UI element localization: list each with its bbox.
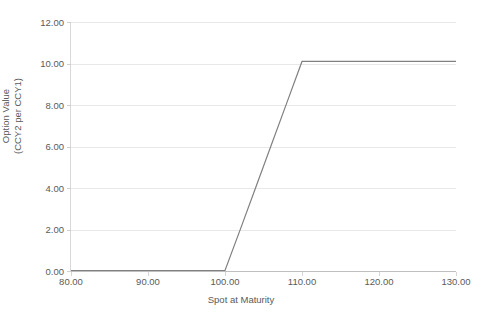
- x-tick-label: 100.00: [195, 276, 255, 287]
- plot-area: [71, 22, 456, 271]
- y-tick-label: 10.00: [18, 58, 64, 69]
- y-tick-label: 4.00: [18, 183, 64, 194]
- bottom-caption-fragment: [0, 307, 482, 314]
- y-tick-label: 6.00: [18, 141, 64, 152]
- series-line-option-value: [71, 61, 456, 270]
- y-tick-label: 12.00: [18, 17, 64, 28]
- y-tick-label: 8.00: [18, 100, 64, 111]
- x-axis-title: Spot at Maturity: [0, 294, 482, 305]
- series-layer: [71, 22, 456, 271]
- y-axis-title-line1: Option Value: [0, 46, 12, 186]
- x-tick-label: 80.00: [41, 276, 101, 287]
- y-axis-title-line2: (CCY2 per CCY1): [12, 46, 24, 186]
- chart-container: 12.00 10.00 8.00 6.00 4.00 2.00 0.00 Opt…: [0, 0, 482, 314]
- y-axis-title: Option Value (CCY2 per CCY1): [0, 46, 24, 186]
- x-tick-label: 120.00: [349, 276, 409, 287]
- x-tick-label: 110.00: [272, 276, 332, 287]
- x-tick-label: 90.00: [118, 276, 178, 287]
- x-tick-label: 130.00: [426, 276, 482, 287]
- y-tick-label: 2.00: [18, 224, 64, 235]
- x-axis-line: [70, 271, 456, 272]
